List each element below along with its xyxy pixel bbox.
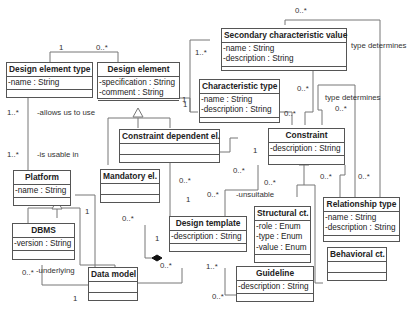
multiplicity-label: 0..* [122,214,134,223]
class-guideline[interactable]: Guideline -description : String [236,266,314,302]
multiplicity-label: 0..* [284,109,296,118]
multiplicity-label: 0..* [160,261,172,270]
multiplicity-label: 1..* [195,48,207,57]
multiplicity-label: 1 [85,207,89,216]
multiplicity-label: 1 [155,234,159,243]
multiplicity-label: 0..* [295,6,307,15]
class-attributes: -name : String -description : String [222,43,346,67]
role-label: -is usable in [37,150,79,159]
class-platform[interactable]: Platform -name : String [13,170,71,206]
class-operations [324,236,399,243]
class-title: Design template [170,217,246,231]
class-attributes: -name : String -description : String [324,212,399,236]
attribute: -description : String [201,105,278,115]
attribute: -name : String [201,95,278,105]
class-operations [7,90,92,97]
class-title: Data model [89,268,137,282]
multiplicity-label: 0..* [207,190,219,199]
class-title: Mandatory el. [101,170,159,184]
attribute: -type : Enum [256,232,309,242]
class-title: DBMS [13,224,74,238]
attribute: -specification : String [99,78,178,88]
class-attributes: -version : String [13,238,74,251]
class-title: Design element type [7,63,92,77]
class-title: Behavioral ct. [328,248,386,262]
role-label: -unsuitable [236,190,274,199]
multiplicity-label: 1 [59,43,63,52]
attribute: -name : String [8,78,91,88]
class-attributes: -description : String [269,143,344,156]
attribute: -description : String [223,54,345,64]
multiplicity-label: 0..* [96,43,108,52]
role-label: -underlying [36,266,75,275]
class-attributes: -role : Enum -type : Enum -value : Enum [255,221,310,255]
class-attributes: -name : String [7,77,92,90]
class-operations [255,255,310,262]
class-attributes [101,184,159,195]
attribute: -description : String [325,223,398,233]
class-operations [89,293,137,300]
attribute: -description : String [238,282,312,292]
class-operations [269,156,344,163]
class-title: Characteristic type [200,80,279,94]
class-dbms[interactable]: DBMS -version : String [12,223,75,260]
class-attributes: -description : String [237,281,313,294]
class-title: Structural ct. [255,207,310,221]
class-attributes: -name : String [14,185,70,198]
class-attributes [89,282,137,293]
class-secondary-characteristic-value[interactable]: Secondary characteristic value -name : S… [221,28,347,71]
uml-class-diagram: Design element type -name : String Desig… [0,0,417,310]
attribute: -version : String [14,239,73,249]
class-data-model[interactable]: Data model [88,267,138,301]
multiplicity-label: 0..* [320,172,332,181]
attribute: -value : Enum [256,243,309,253]
class-constraint[interactable]: Constraint -description : String [268,128,345,165]
multiplicity-label: 0..* [297,84,309,93]
class-design-template[interactable]: Design template -description : String [169,216,247,252]
class-operations [237,294,313,301]
multiplicity-label: 1..* [206,262,218,271]
class-behavioral-ct[interactable]: Behavioral ct. [327,247,387,281]
multiplicity-label: 1..* [7,150,19,159]
class-characteristic-type[interactable]: Characteristic type -name : String -desc… [199,79,280,123]
multiplicity-label: 0..* [335,104,347,113]
role-label: type determines [351,41,406,50]
multiplicity-label: 1 [253,146,257,155]
class-relationship-type[interactable]: Relationship type -name : String -descri… [323,197,400,242]
attribute: -description : String [270,144,343,154]
multiplicity-label: 0..* [212,292,224,301]
multiplicity-label: 0..* [358,172,370,181]
role-label: type determines [325,93,380,102]
class-operations [101,195,159,202]
multiplicity-label: 1..* [7,108,19,117]
multiplicity-label: 0..* [179,176,191,185]
class-attributes: -specification : String -comment : Strin… [98,77,179,101]
class-operations [222,67,346,74]
attribute: -role : Enum [256,222,309,232]
multiplicity-label: 0..* [233,166,245,175]
class-structural-ct[interactable]: Structural ct. -role : Enum -type : Enum… [254,206,311,263]
class-title: Secondary characteristic value [222,29,346,43]
class-attributes [120,144,219,155]
attribute: -name : String [325,213,398,223]
class-operations [328,273,386,280]
class-title: Guideline [237,267,313,281]
class-title: Relationship type [324,198,399,212]
multiplicity-label: 0..* [22,268,34,277]
multiplicity-label: 1 [183,100,187,109]
class-title: Constraint [269,129,344,143]
attribute: -comment : String [99,88,178,98]
attribute: -name : String [223,44,345,54]
class-mandatory-el[interactable]: Mandatory el. [100,169,160,203]
attribute: -description : String [171,232,245,242]
class-attributes: -name : String -description : String [200,94,279,118]
class-operations [170,244,246,251]
class-design-element-type[interactable]: Design element type -name : String [6,62,93,98]
class-design-element[interactable]: Design element -specification : String -… [97,62,180,99]
multiplicity-label: 0..* [264,178,276,187]
class-attributes [328,262,386,273]
class-constraint-dependent-el[interactable]: Constraint dependent el. [119,129,220,163]
multiplicity-label: 1 [73,294,77,303]
class-title: Design element [98,63,179,77]
class-attributes: -description : String [170,231,246,244]
